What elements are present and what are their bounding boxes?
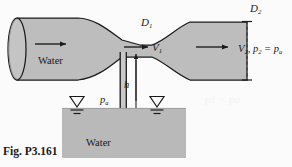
label-exit-conditions: V2, p2 = pa xyxy=(238,44,282,55)
duct-assembly xyxy=(8,18,252,81)
reservoir-water-body xyxy=(62,108,186,158)
label-atmospheric-pressure: pa xyxy=(100,95,109,106)
label-water-pipe: Water xyxy=(38,56,63,67)
label-h: h xyxy=(124,80,129,91)
label-v1: V1 xyxy=(152,42,162,55)
figure-caption: Fig. P3.161 xyxy=(3,146,58,158)
label-water-reservoir: Water xyxy=(86,138,111,149)
label-d2: D2 xyxy=(250,3,261,16)
pencil-smudge: p1 < pa xyxy=(205,93,240,105)
label-d1: D1 xyxy=(141,17,152,30)
pipe-inlet-face xyxy=(8,18,26,80)
duct-fluid-body xyxy=(17,18,247,80)
reservoir xyxy=(62,108,186,158)
